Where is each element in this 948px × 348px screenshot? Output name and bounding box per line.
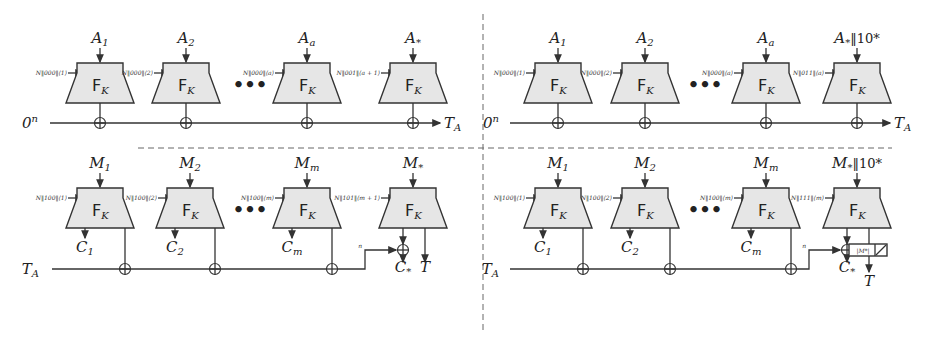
- panel-bottom-right: TAM1N‖100‖⟨1⟩FKC1M2N‖100‖⟨2⟩FKC2MmN‖100‖…: [482, 154, 891, 290]
- nonce-label: N‖000‖⟨1⟩: [35, 69, 67, 77]
- tag-label: T: [420, 258, 431, 276]
- input-label: Aa: [297, 29, 316, 48]
- block-1: M1N‖100‖⟨1⟩FKC1: [35, 154, 134, 275]
- end-label: TA: [444, 114, 461, 133]
- nonce-label: N‖011‖⟨a⟩: [792, 69, 824, 77]
- panel-top-right: 0nA1N‖000‖⟨1⟩FKA2N‖000‖⟨2⟩FKAaN‖000‖⟨a⟩F…: [483, 29, 911, 133]
- input-label: M1: [88, 154, 111, 173]
- wire-width-label: n: [802, 242, 806, 249]
- ciphertext-label: C1: [76, 238, 94, 257]
- end-label: TA: [894, 114, 911, 133]
- nonce-label: N‖100‖⟨1⟩: [493, 194, 525, 202]
- ciphertext-label: Cm: [282, 238, 303, 257]
- block-4: M*N‖101‖⟨m + 1⟩FKC*nT: [333, 154, 447, 277]
- block-4: A*‖10*N‖011‖⟨a⟩FK: [792, 29, 891, 129]
- ciphertext-label: C2: [166, 238, 184, 257]
- ciphertext-label: C2: [621, 238, 639, 257]
- nonce-label: N‖111‖⟨m⟩: [790, 194, 824, 202]
- final-cipher-label: C*: [395, 258, 411, 277]
- ellipsis: •••: [233, 199, 268, 220]
- block-1: M1N‖100‖⟨1⟩FKC1: [493, 154, 592, 275]
- ciphertext-label: C1: [534, 238, 552, 257]
- nonce-label: N‖100‖⟨2⟩: [580, 194, 612, 202]
- nonce-label: N‖000‖⟨2⟩: [121, 69, 153, 77]
- block-1: A1N‖000‖⟨1⟩FK: [493, 29, 592, 129]
- input-label: A2: [175, 29, 194, 48]
- input-label: Mm: [753, 154, 779, 173]
- wire-width-label: n: [358, 242, 362, 249]
- nonce-label: N‖001‖⟨a + 1⟩: [335, 69, 380, 77]
- tag-to-final-wire: [797, 250, 840, 269]
- input-label: A2: [634, 29, 653, 48]
- nonce-label: N‖101‖⟨m + 1⟩: [333, 194, 380, 202]
- tag-label: T: [864, 272, 875, 290]
- block-4: M*‖10*N‖111‖⟨m⟩FKC*n|M*|T: [790, 154, 891, 290]
- input-label: A1: [89, 29, 108, 48]
- nonce-label: N‖000‖⟨1⟩: [493, 69, 525, 77]
- panel-bottom-left: TAM1N‖100‖⟨1⟩FKC1M2N‖100‖⟨2⟩FKC2MmN‖100‖…: [22, 154, 447, 279]
- final-cipher-label: C*: [839, 258, 855, 277]
- panel-top-left: 0nA1N‖000‖⟨1⟩FKA2N‖000‖⟨2⟩FKAaN‖000‖⟨a⟩F…: [22, 29, 461, 133]
- ellipsis: •••: [233, 74, 268, 95]
- nonce-label: N‖000‖⟨2⟩: [580, 69, 612, 77]
- ellipsis: •••: [688, 74, 723, 95]
- start-label: 0n: [22, 113, 38, 132]
- truncate-label: |M*|: [856, 247, 869, 255]
- input-label: M2: [633, 154, 656, 173]
- diagram-canvas: 0nA1N‖000‖⟨1⟩FKA2N‖000‖⟨2⟩FKAaN‖000‖⟨a⟩F…: [0, 0, 948, 348]
- ellipsis: •••: [688, 199, 723, 220]
- nonce-label: N‖100‖⟨1⟩: [35, 194, 67, 202]
- start-label: 0n: [483, 113, 499, 132]
- input-label: M*‖10*: [831, 154, 882, 173]
- block-4: A*N‖001‖⟨a + 1⟩FK: [335, 29, 447, 129]
- input-label: M1: [546, 154, 569, 173]
- block-2: M2N‖100‖⟨2⟩FKC2: [580, 154, 679, 275]
- input-label: Aa: [756, 29, 775, 48]
- ciphertext-label: Cm: [741, 238, 762, 257]
- input-label: A1: [547, 29, 566, 48]
- block-1: A1N‖000‖⟨1⟩FK: [35, 29, 134, 129]
- input-label: Mm: [294, 154, 320, 173]
- start-label: TA: [22, 260, 39, 279]
- nonce-label: N‖100‖⟨2⟩: [125, 194, 157, 202]
- input-label: M2: [178, 154, 201, 173]
- block-2: M2N‖100‖⟨2⟩FKC2: [125, 154, 224, 275]
- tag-to-final-wire: [338, 250, 396, 269]
- block-2: A2N‖000‖⟨2⟩FK: [580, 29, 679, 129]
- input-label: A*‖10*: [832, 29, 880, 48]
- start-label: TA: [482, 260, 499, 279]
- input-label: A*: [403, 29, 421, 48]
- input-label: M*: [402, 154, 423, 173]
- block-2: A2N‖000‖⟨2⟩FK: [121, 29, 220, 129]
